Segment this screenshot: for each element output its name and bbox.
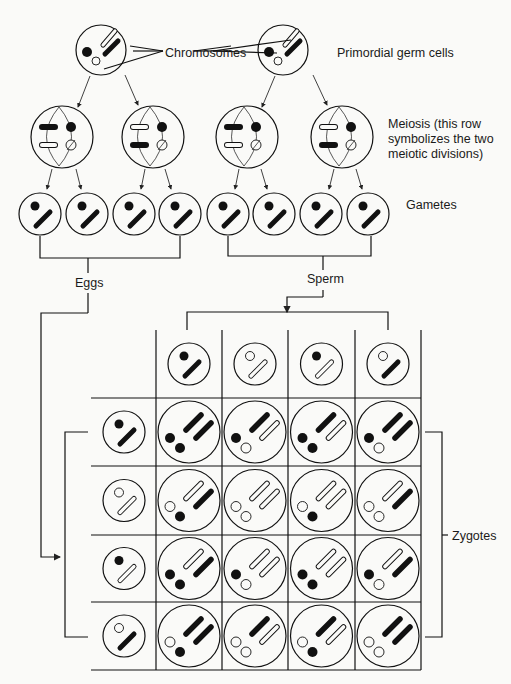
hollow-dot-chromosome [241,512,251,522]
zygote-cell [224,470,286,532]
zygote-cell [158,401,220,463]
filled-dot-chromosome [312,202,321,211]
filled-dot-chromosome [175,443,185,453]
label-gametes: Gametes [406,198,457,213]
hollow-dot-chromosome [298,502,308,512]
hollow-dot-chromosome [374,580,384,590]
egg-row-cell [103,615,145,657]
filled-dot-chromosome [66,122,76,132]
zygote-cell [357,538,419,600]
filled-dot-chromosome [364,570,374,580]
hollow-dot-chromosome [246,352,255,361]
filled-dot-chromosome [231,433,241,443]
hollow-dot-chromosome [374,443,384,453]
filled-dot-chromosome [175,647,185,657]
filled-dot-chromosome [82,47,92,57]
zygote-cell [357,470,419,532]
hollow-dot-chromosome [364,637,374,647]
filled-dot-chromosome [265,202,274,211]
zygote-cell [158,470,220,532]
hollow-dot-chromosome [241,580,251,590]
hollow-dot-chromosome [92,57,100,65]
hollow-dot-chromosome [115,624,124,633]
gamete-cell [66,193,108,235]
filled-dot-chromosome [251,122,261,132]
filled-dot-chromosome [346,122,356,132]
sperm-header-cell [367,343,409,385]
filled-dot-chromosome [165,433,175,443]
filled-dot-chromosome [359,202,368,211]
filled-dot-chromosome [165,570,175,580]
zygote-cell [291,605,353,667]
filled-dot-chromosome [298,433,308,443]
meiosis-cell [31,106,93,168]
meiosis-cell [122,106,184,168]
hollow-dot-chromosome [374,647,384,657]
filled-dot-chromosome [308,580,318,590]
meiosis-diagram [0,0,511,684]
label-eggs: Eggs [75,276,104,291]
filled-dot-chromosome [115,420,124,429]
filled-dot-chromosome [115,556,124,565]
zygote-cell [158,605,220,667]
egg-row-cell [103,411,145,453]
hollow-dot-chromosome [115,488,124,497]
hollow-dot-chromosome [165,502,175,512]
zygote-cell [357,401,419,463]
filled-dot-chromosome [31,202,40,211]
filled-dot-chromosome [175,580,185,590]
zygote-cell [224,605,286,667]
hollow-dot-chromosome [165,637,175,647]
gamete-cell [19,193,61,235]
gamete-cell [253,193,295,235]
zygote-cell [357,605,419,667]
label-primordial-germ-cells: Primordial germ cells [337,46,454,61]
gamete-cell [347,193,389,235]
filled-dot-chromosome [175,512,185,522]
gamete-cell [159,193,201,235]
zygote-cell [224,538,286,600]
hollow-dot-chromosome [379,352,388,361]
hollow-dot-chromosome [241,443,251,453]
label-chromosomes: Chromosomes [165,46,246,61]
filled-dot-chromosome [264,47,274,57]
filled-dot-chromosome [308,647,318,657]
hollow-dot-chromosome [374,512,384,522]
hollow-dot-chromosome [231,502,241,512]
gamete-cell [207,193,249,235]
meiosis-cell [311,106,373,168]
hollow-dot-chromosome [364,502,374,512]
gamete-cell [300,193,342,235]
filled-dot-chromosome [308,443,318,453]
zygote-cell [158,538,220,600]
filled-dot-chromosome [125,202,134,211]
label-meiosis-3: meiotic divisions) [388,147,483,162]
filled-dot-chromosome [312,352,321,361]
filled-dot-chromosome [78,202,87,211]
egg-row-cell [103,480,145,522]
label-zygotes: Zygotes [452,529,496,544]
filled-dot-chromosome [157,122,167,132]
filled-dot-chromosome [231,570,241,580]
zygote-cell [291,470,353,532]
hollow-dot-chromosome [274,57,282,65]
hollow-dot-chromosome [231,637,241,647]
egg-row-cell [103,548,145,590]
zygote-cell [291,538,353,600]
zygote-cell [291,401,353,463]
filled-dot-chromosome [219,202,228,211]
filled-dot-chromosome [364,433,374,443]
sperm-header-cell [234,343,276,385]
label-sperm: Sperm [307,272,344,287]
zygote-cell [224,401,286,463]
filled-dot-chromosome [171,202,180,211]
hollow-dot-chromosome [298,637,308,647]
filled-dot-chromosome [308,512,318,522]
gamete-cell [113,193,155,235]
sperm-header-cell [301,343,343,385]
filled-dot-chromosome [298,570,308,580]
meiosis-cell [216,106,278,168]
sperm-header-cell [168,343,210,385]
filled-dot-chromosome [180,352,189,361]
label-meiosis-1: Meiosis (this row [388,117,481,132]
